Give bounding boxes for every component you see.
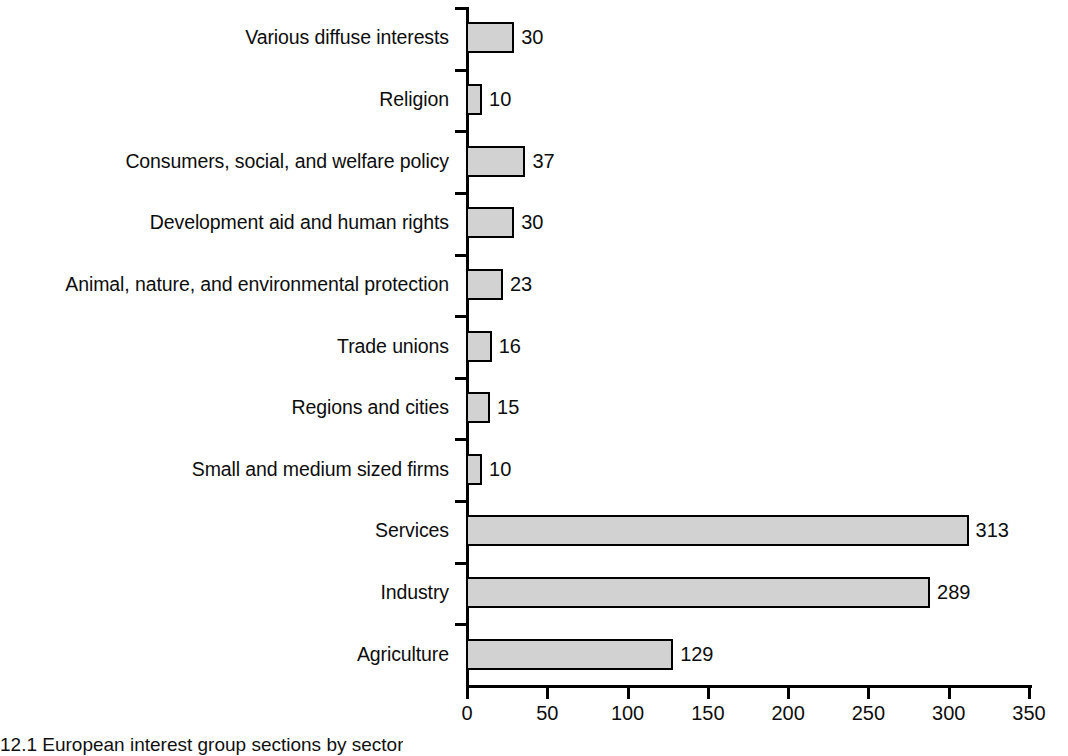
- bar-value-label: 16: [499, 331, 521, 362]
- bar: [466, 22, 514, 53]
- x-axis-tick: [867, 688, 870, 699]
- category-label: Animal, nature, and environmental protec…: [0, 269, 458, 300]
- x-axis-tick: [627, 688, 630, 699]
- x-axis-tick-label: 150: [673, 701, 743, 725]
- x-axis-tick: [1028, 688, 1031, 699]
- category-label: Various diffuse interests: [0, 22, 458, 53]
- bar: [466, 577, 930, 608]
- y-axis-tick: [455, 438, 466, 441]
- x-axis-tick-label: 250: [833, 701, 903, 725]
- x-axis-tick: [546, 688, 549, 699]
- y-axis-tick: [455, 254, 466, 257]
- category-label: Industry: [0, 577, 458, 608]
- y-axis-tick: [455, 500, 466, 503]
- category-label: Development aid and human rights: [0, 207, 458, 238]
- y-axis-tick: [455, 377, 466, 380]
- y-axis-tick: [455, 315, 466, 318]
- bar: [466, 84, 482, 115]
- category-label: Regions and cities: [0, 392, 458, 423]
- bar-value-label: 23: [510, 269, 532, 300]
- x-axis-tick: [707, 688, 710, 699]
- category-label: Religion: [0, 84, 458, 115]
- x-axis-tick: [948, 688, 951, 699]
- plot-area: 3010373023161510313289129 05010015020025…: [466, 7, 1032, 685]
- bar-value-label: 10: [489, 84, 511, 115]
- bar: [466, 146, 525, 177]
- bar: [466, 392, 490, 423]
- y-axis-tick: [455, 69, 466, 72]
- y-axis-tick: [455, 623, 466, 626]
- bar-value-label: 30: [521, 207, 543, 238]
- bar: [466, 639, 673, 670]
- bar: [466, 454, 482, 485]
- bar: [466, 515, 969, 546]
- x-axis-tick: [466, 688, 469, 699]
- bar: [466, 207, 514, 238]
- figure-caption: 12.1 European interest group sections by…: [0, 733, 403, 756]
- bar: [466, 269, 503, 300]
- bar-value-label: 37: [532, 146, 554, 177]
- x-axis-tick: [787, 688, 790, 699]
- y-axis-tick: [455, 192, 466, 195]
- x-axis-tick-label: 300: [914, 701, 984, 725]
- x-axis-tick-label: 0: [432, 701, 502, 725]
- y-axis-tick: [455, 7, 466, 10]
- category-label: Small and medium sized firms: [0, 454, 458, 485]
- category-label: Services: [0, 515, 458, 546]
- bar-value-label: 10: [489, 454, 511, 485]
- bar-value-label: 15: [497, 392, 519, 423]
- x-axis-tick-label: 50: [512, 701, 582, 725]
- bar-value-label: 129: [680, 639, 713, 670]
- bar-value-label: 30: [521, 22, 543, 53]
- y-axis-tick: [455, 130, 466, 133]
- bar: [466, 331, 492, 362]
- x-axis-tick-label: 200: [753, 701, 823, 725]
- bar-value-label: 289: [937, 577, 970, 608]
- category-label: Agriculture: [0, 639, 458, 670]
- category-label: Consumers, social, and welfare policy: [0, 146, 458, 177]
- x-axis-tick-label: 350: [994, 701, 1064, 725]
- category-label: Trade unions: [0, 331, 458, 362]
- x-axis-tick-label: 100: [593, 701, 663, 725]
- y-axis-tick: [455, 562, 466, 565]
- bar-value-label: 313: [976, 515, 1009, 546]
